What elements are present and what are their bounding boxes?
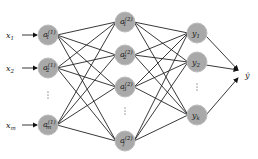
edge-l2-out bbox=[134, 33, 188, 141]
ellipsis-dot bbox=[196, 89, 197, 90]
output-yhat-label: ŷ bbox=[244, 71, 250, 80]
input-label-3: xm bbox=[6, 121, 16, 131]
edge-l1-l2 bbox=[57, 87, 116, 125]
node-circle bbox=[115, 131, 135, 151]
output-node-1: y1 bbox=[187, 23, 207, 43]
ellipsis-dot bbox=[47, 91, 48, 92]
layer1-node-1: a(1)1 bbox=[38, 25, 58, 45]
edge-l1-l2 bbox=[57, 55, 116, 125]
layer1-node-3: a(1)m bbox=[38, 115, 58, 135]
layer2-node-1: a(2)1 bbox=[115, 12, 135, 32]
edge-l2-out bbox=[134, 33, 188, 87]
layer2-node-4: a(2)j bbox=[115, 131, 135, 151]
edge-l1-l2 bbox=[57, 68, 116, 87]
output-arrow bbox=[206, 78, 238, 115]
input-labels: x1x2xm bbox=[6, 31, 16, 131]
output-node-3: yk bbox=[187, 105, 207, 125]
ellipsis-dot bbox=[47, 94, 48, 95]
layer2-node-3: a(2)3 bbox=[115, 77, 135, 97]
output-node-2: y2 bbox=[187, 52, 207, 72]
ellipsis-dot bbox=[124, 107, 125, 108]
edge-l1-l2 bbox=[57, 22, 116, 125]
ellipsis-dot bbox=[124, 113, 125, 114]
ellipsis-dot bbox=[196, 86, 197, 87]
edge-l1-l2 bbox=[57, 35, 116, 141]
ellipsis-dot bbox=[47, 97, 48, 98]
network-nodes: a(1)1a(1)2a(1)ma(2)1a(2)2a(2)3a(2)jy1y2y… bbox=[38, 12, 207, 151]
layer1-node-2: a(1)2 bbox=[38, 58, 58, 78]
input-label-1: x1 bbox=[6, 31, 14, 41]
edge-l1-l2 bbox=[57, 125, 116, 141]
ellipsis-dot bbox=[196, 83, 197, 84]
layer2-node-2: a(2)2 bbox=[115, 45, 135, 65]
edge-l2-out bbox=[134, 115, 188, 141]
neural-network-diagram: x1x2xm a(1)1a(1)2a(1)ma(2)1a(2)2a(2)3a(2… bbox=[0, 0, 258, 159]
output-arrow bbox=[206, 65, 238, 70]
ellipsis-dot bbox=[124, 110, 125, 111]
output-arrow bbox=[206, 36, 238, 70]
edge-l2-out bbox=[134, 55, 188, 115]
input-label-2: x2 bbox=[6, 64, 15, 74]
